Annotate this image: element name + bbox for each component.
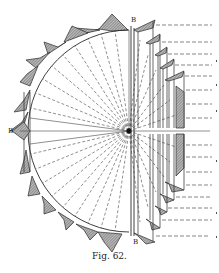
- prism-plates-top: [134, 20, 184, 128]
- radial-lines: [20, 30, 210, 231]
- projection-lines: [156, 25, 212, 236]
- label-b-left: B: [8, 128, 13, 135]
- label-b-top: B: [131, 17, 136, 24]
- prism-plates-bottom: [134, 134, 184, 244]
- prism-fan-diagram: [0, 0, 219, 273]
- figure-caption: Fig. 62.: [0, 251, 219, 261]
- margin-marks: [216, 60, 217, 238]
- label-b-bottom: B: [133, 239, 138, 246]
